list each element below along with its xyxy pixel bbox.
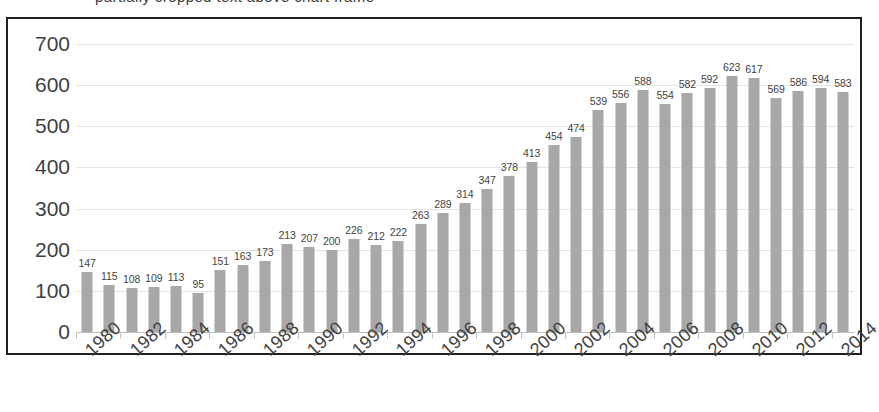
bar-value-label: 115 — [101, 270, 117, 282]
bar — [171, 286, 182, 332]
bar-group: 588 — [632, 44, 654, 332]
bar — [637, 90, 648, 332]
bar-group: 147 — [76, 44, 98, 332]
bar-value-label: 173 — [256, 246, 273, 258]
bar-value-label: 539 — [590, 95, 607, 107]
bar-group: 617 — [743, 44, 765, 332]
bar-group: 109 — [143, 44, 165, 332]
bar-group: 413 — [521, 44, 543, 332]
bar-value-label: 200 — [323, 235, 340, 247]
bar-group: 113 — [165, 44, 187, 332]
bar-group: 212 — [365, 44, 387, 332]
bar-value-label: 314 — [456, 188, 473, 200]
bar-value-label: 108 — [123, 273, 140, 285]
y-tick-label: 300 — [14, 197, 70, 221]
bar — [482, 189, 493, 332]
bar — [660, 104, 671, 332]
bar — [571, 137, 582, 332]
bar — [259, 261, 270, 332]
bar-group: 108 — [120, 44, 142, 332]
bar-group: 222 — [387, 44, 409, 332]
bar-group: 623 — [721, 44, 743, 332]
bar-value-label: 474 — [568, 122, 585, 134]
bar — [682, 93, 693, 332]
bar — [771, 98, 782, 332]
y-tick-label: 200 — [14, 238, 70, 262]
bar-group: 582 — [676, 44, 698, 332]
bar — [348, 239, 359, 332]
bar-value-label: 569 — [768, 83, 785, 95]
bar-value-label: 222 — [390, 226, 407, 238]
bar-value-label: 413 — [523, 147, 540, 159]
bar-group: 200 — [321, 44, 343, 332]
bar-value-label: 582 — [679, 78, 696, 90]
y-tick-label: 0 — [14, 320, 70, 344]
bar-group: 454 — [543, 44, 565, 332]
bar-value-label: 592 — [701, 73, 718, 85]
bar-group: 173 — [254, 44, 276, 332]
bar-value-label: 583 — [834, 77, 851, 89]
y-axis: 7006005004003002001000 — [14, 44, 70, 332]
bar-group: 594 — [810, 44, 832, 332]
bar — [126, 288, 137, 332]
bar-value-label: 113 — [168, 271, 184, 283]
bar — [82, 272, 93, 332]
bar-group: 592 — [698, 44, 720, 332]
bar-group: 95 — [187, 44, 209, 332]
y-tick-label: 100 — [14, 279, 70, 303]
bar-value-label: 213 — [279, 229, 296, 241]
bar — [793, 91, 804, 332]
bar — [504, 176, 515, 332]
bar-group: 207 — [298, 44, 320, 332]
bar-value-label: 289 — [434, 198, 451, 210]
bar-group: 474 — [565, 44, 587, 332]
bar-value-label: 554 — [656, 89, 673, 101]
bar — [526, 162, 537, 332]
bar-group: 115 — [98, 44, 120, 332]
y-tick-label: 700 — [14, 32, 70, 56]
bar-group: 378 — [498, 44, 520, 332]
bar-value-label: 378 — [501, 161, 518, 173]
bar — [393, 241, 404, 332]
bar-group: 347 — [476, 44, 498, 332]
bar-value-label: 556 — [612, 88, 629, 100]
bar-group: 569 — [765, 44, 787, 332]
bar-group: 289 — [432, 44, 454, 332]
bar — [837, 92, 848, 332]
bar — [459, 203, 470, 332]
plot-area: 1471151081091139515116317321320720022621… — [76, 44, 854, 332]
bar-value-label: 212 — [367, 230, 384, 242]
bar — [215, 270, 226, 332]
bar-value-label: 163 — [234, 250, 251, 262]
bar-value-label: 623 — [723, 61, 740, 73]
bar-group: 554 — [654, 44, 676, 332]
bar-group: 556 — [609, 44, 631, 332]
bar-group: 314 — [454, 44, 476, 332]
bar — [704, 88, 715, 332]
bar-chart: 7006005004003002001000 14711510810911395… — [0, 0, 879, 412]
bar-value-label: 207 — [301, 232, 318, 244]
bar-value-label: 95 — [193, 278, 204, 290]
bar-value-label: 617 — [745, 63, 762, 75]
bar-group: 163 — [232, 44, 254, 332]
bar-group: 151 — [209, 44, 231, 332]
bar — [726, 76, 737, 332]
bar-value-label: 347 — [479, 174, 496, 186]
y-tick-label: 400 — [14, 155, 70, 179]
bar-value-label: 454 — [545, 130, 562, 142]
x-axis: 1980198219841986198819901992199419961998… — [76, 339, 854, 412]
bar — [593, 110, 604, 332]
bar-group: 263 — [409, 44, 431, 332]
bar — [548, 145, 559, 332]
bar-value-label: 586 — [790, 76, 807, 88]
bar — [304, 247, 315, 332]
bar-value-label: 226 — [345, 224, 362, 236]
bar-group: 539 — [587, 44, 609, 332]
bar-group: 583 — [832, 44, 854, 332]
bar — [437, 213, 448, 332]
bar-value-label: 588 — [634, 75, 651, 87]
bar-series: 1471151081091139515116317321320720022621… — [76, 44, 854, 332]
bar-group: 226 — [343, 44, 365, 332]
bar — [415, 224, 426, 332]
bar — [615, 103, 626, 332]
